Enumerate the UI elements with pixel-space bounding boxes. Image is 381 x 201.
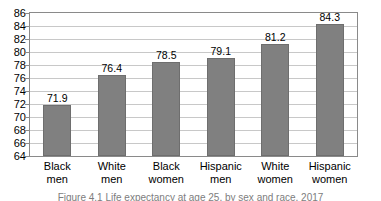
bar-value-label: 76.4 (102, 63, 122, 74)
x-axis-category-line: women (248, 173, 303, 186)
plot-area: 71.976.478.579.181.284.3 (30, 13, 357, 156)
y-axis-tick-label: 80 (0, 47, 26, 58)
bar (98, 75, 126, 156)
x-axis-category-line: men (194, 173, 249, 186)
bar-value-label: 81.2 (265, 32, 285, 43)
bar-group: 84.3 (303, 13, 358, 156)
bar-group: 76.4 (85, 13, 140, 156)
bar-group: 79.1 (194, 13, 249, 156)
y-axis-tick-label: 76 (0, 73, 26, 84)
bar-value-label: 84.3 (320, 12, 340, 23)
y-axis-tick-label: 86 (0, 8, 26, 19)
x-axis-category-label: Hispanicwomen (303, 160, 358, 186)
y-axis-tick-label: 66 (0, 138, 26, 149)
figure-bar-chart: 868482807876747270686664 71.976.478.579.… (0, 0, 381, 201)
bar (261, 44, 289, 156)
y-axis-tick-label: 70 (0, 112, 26, 123)
x-axis-category-line: men (85, 173, 140, 186)
x-axis-category-label: Blackmen (30, 160, 85, 186)
bar (207, 58, 235, 156)
y-axis-tick-label: 68 (0, 125, 26, 136)
y-axis-tick-label: 78 (0, 60, 26, 71)
x-axis-category-label: Whitemen (85, 160, 140, 186)
y-axis-tick-label: 74 (0, 86, 26, 97)
y-axis-tick-label: 84 (0, 21, 26, 32)
x-axis-category-line: Black (139, 160, 194, 173)
y-axis-tick-label: 82 (0, 34, 26, 45)
x-axis-category-line: women (139, 173, 194, 186)
x-axis-category-line: White (248, 160, 303, 173)
bar (152, 62, 180, 156)
x-axis-category-line: Black (30, 160, 85, 173)
bar-group: 78.5 (139, 13, 194, 156)
x-axis-category-line: Hispanic (303, 160, 358, 173)
bar-value-label: 79.1 (211, 46, 231, 57)
x-axis-category-line: women (303, 173, 358, 186)
bar-value-label: 78.5 (156, 50, 176, 61)
y-axis: 868482807876747270686664 (0, 12, 26, 157)
x-axis-category-label: Hispanicmen (194, 160, 249, 186)
x-axis-category-label: Blackwomen (139, 160, 194, 186)
bar (316, 24, 344, 156)
x-axis-category-label: Whitewomen (248, 160, 303, 186)
bar-value-label: 71.9 (47, 93, 67, 104)
x-axis-category-line: White (85, 160, 140, 173)
y-axis-tick-label: 64 (0, 151, 26, 162)
y-axis-tick-label: 72 (0, 99, 26, 110)
bar-group: 71.9 (30, 13, 85, 156)
x-axis: BlackmenWhitemenBlackwomenHispanicmenWhi… (30, 160, 357, 190)
x-axis-category-line: men (30, 173, 85, 186)
bar-group: 81.2 (248, 13, 303, 156)
figure-caption: Figure 4.1 Life expectancy at age 25, by… (0, 192, 381, 201)
bar (43, 105, 71, 156)
x-axis-category-line: Hispanic (194, 160, 249, 173)
